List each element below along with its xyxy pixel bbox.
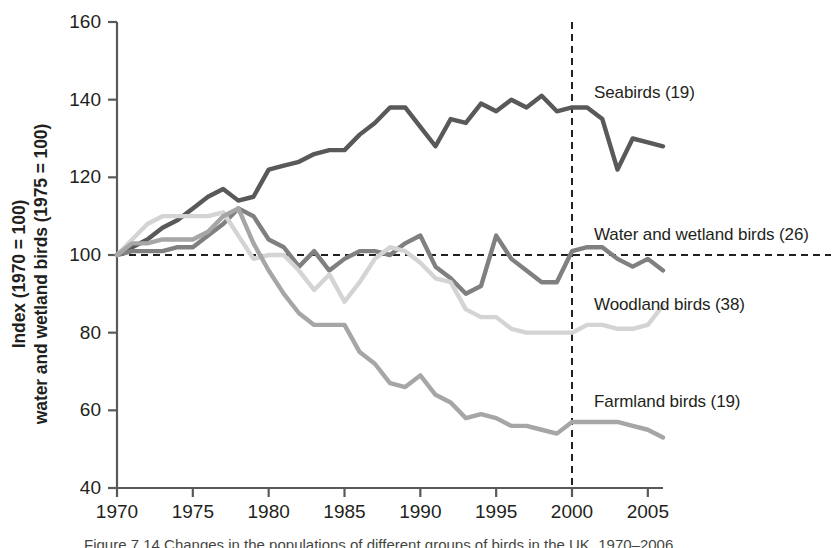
x-axis-tick-label-1985: 1985 (310, 501, 380, 523)
figure-bird-population-index: Index (1970 = 100) water and wetland bir… (0, 0, 837, 548)
x-axis-tick-label-1970: 1970 (82, 501, 152, 523)
y-axis-tick-label-140: 140 (55, 89, 101, 111)
series-line-2 (117, 212, 663, 332)
x-axis-tick-label-1995: 1995 (461, 501, 531, 523)
y-axis-title-line-2: water and wetland birds (1975 = 100) (31, 124, 53, 424)
y-axis-title-line-1: Index (1970 = 100) (9, 200, 31, 349)
y-axis-tick-label-60: 60 (55, 399, 101, 421)
series-line-0 (117, 96, 663, 255)
axes-lines (108, 22, 663, 497)
y-axis-title: Index (1970 = 100) water and wetland bir… (0, 0, 62, 548)
chart-plot-area (0, 0, 837, 548)
y-axis-tick-label-80: 80 (55, 322, 101, 344)
x-axis-tick-label-1980: 1980 (234, 501, 304, 523)
x-axis-tick-label-2005: 2005 (613, 501, 683, 523)
x-axis-tick-label-2000: 2000 (537, 501, 607, 523)
y-axis-tick-label-120: 120 (55, 166, 101, 188)
y-axis-tick-label-40: 40 (55, 477, 101, 499)
y-axis-tick-label-100: 100 (55, 244, 101, 266)
farmland-label: Farmland birds (19) (594, 392, 740, 412)
x-axis-tick-label-1990: 1990 (385, 501, 455, 523)
y-axis-tick-label-160: 160 (55, 11, 101, 33)
series-line-1 (117, 208, 663, 293)
figure-caption: Figure 7.14 Changes in the populations o… (84, 536, 834, 548)
x-axis-tick-label-1975: 1975 (158, 501, 228, 523)
seabirds-label: Seabirds (19) (594, 83, 695, 103)
woodland-label: Woodland birds (38) (594, 295, 745, 315)
water-wetland-label: Water and wetland birds (26) (594, 225, 809, 245)
series-lines (117, 96, 663, 438)
